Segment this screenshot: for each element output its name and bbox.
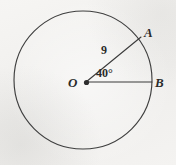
central-angle-label: 40° — [96, 67, 113, 79]
radius-length-label: 9 — [101, 44, 107, 56]
radius-oa-line — [86, 37, 141, 82]
circle-shape — [14, 11, 152, 149]
geometry-figure: A B O 9 40° — [0, 0, 176, 165]
point-a-label: A — [144, 26, 153, 39]
center-point-label: O — [68, 76, 77, 89]
center-point-dot — [84, 80, 89, 85]
point-b-label: B — [155, 76, 164, 89]
